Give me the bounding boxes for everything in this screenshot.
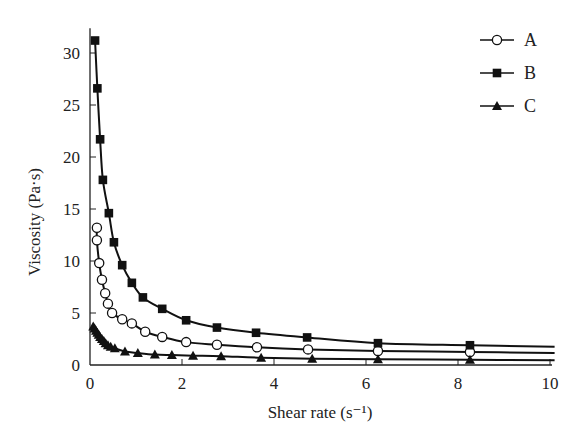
data-point-a: [303, 345, 312, 354]
y-tick-label: 0: [72, 356, 81, 375]
data-point-b: [374, 339, 383, 348]
data-point-b: [466, 341, 475, 350]
x-tick-label: 0: [86, 374, 95, 393]
data-point-b: [128, 279, 137, 288]
viscosity-chart: 0510152025300246810 ABC Shear rate (s⁻¹)…: [0, 0, 582, 448]
legend-marker-b: [493, 69, 502, 78]
data-point-b: [96, 135, 105, 144]
data-point-a: [373, 346, 382, 355]
data-point-a: [103, 299, 112, 308]
data-point-a: [118, 315, 127, 324]
data-point-a: [252, 343, 261, 352]
data-point-a: [158, 332, 167, 341]
series-b-line: [95, 41, 555, 347]
data-point-b: [139, 293, 148, 302]
legend-label: A: [524, 30, 537, 50]
data-point-b: [118, 261, 127, 270]
data-point-b: [252, 328, 261, 337]
data-point-a: [212, 340, 221, 349]
x-tick-label: 8: [454, 374, 463, 393]
x-tick-label: 2: [178, 374, 187, 393]
legend-marker-a: [492, 35, 501, 44]
legend-label: C: [524, 96, 536, 116]
data-point-a: [107, 308, 116, 317]
data-point-b: [99, 176, 108, 185]
data-point-a: [92, 236, 101, 245]
data-point-a: [141, 327, 150, 336]
x-tick-label: 10: [542, 374, 559, 393]
legend-label: B: [524, 63, 536, 83]
data-point-a: [101, 289, 110, 298]
series-layer: [88, 36, 554, 364]
x-tick-label: 6: [362, 374, 371, 393]
y-tick-label: 30: [63, 44, 80, 63]
x-axis-title: Shear rate (s⁻¹): [268, 403, 373, 422]
y-tick-label: 5: [72, 304, 81, 323]
data-point-b: [158, 305, 167, 314]
data-point-b: [93, 84, 102, 93]
series-c-line: [93, 327, 554, 361]
series-b: [91, 36, 555, 349]
legend: ABC: [480, 30, 537, 116]
series-a: [92, 223, 554, 356]
data-point-a: [92, 223, 101, 232]
y-tick-label: 20: [63, 148, 80, 167]
data-point-b: [105, 209, 114, 218]
data-point-a: [127, 319, 136, 328]
data-point-b: [110, 238, 119, 247]
legend-item-a: A: [480, 30, 537, 50]
y-tick-label: 10: [63, 252, 80, 271]
legend-item-c: C: [480, 96, 536, 116]
data-point-a: [97, 275, 106, 284]
data-point-b: [182, 316, 191, 325]
data-point-a: [182, 338, 191, 347]
series-c: [88, 322, 554, 364]
y-axis-title: Viscosity (Pa·s): [25, 168, 44, 276]
y-tick-label: 15: [63, 200, 80, 219]
data-point-a: [95, 258, 104, 267]
legend-item-b: B: [480, 63, 536, 83]
y-tick-label: 25: [63, 96, 80, 115]
data-point-b: [91, 36, 100, 45]
x-tick-label: 4: [270, 374, 279, 393]
data-point-b: [303, 333, 312, 342]
data-point-b: [213, 323, 222, 332]
